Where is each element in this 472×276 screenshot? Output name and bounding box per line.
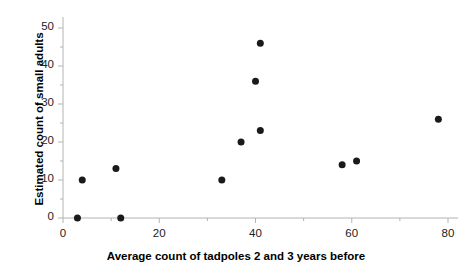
data-point [252, 78, 259, 85]
data-point [238, 139, 245, 146]
data-point [257, 127, 264, 134]
y-tick-label: 40 [14, 58, 54, 70]
data-point [79, 177, 86, 184]
data-point [257, 40, 264, 47]
y-tick-label: 30 [14, 96, 54, 108]
y-tick-label: 50 [14, 20, 54, 32]
data-point [112, 165, 119, 172]
y-tick-label: 10 [14, 172, 54, 184]
y-tick-label: 20 [14, 134, 54, 146]
y-axis-title: Estimated count of small adults [33, 0, 45, 244]
x-tick-label: 80 [428, 227, 468, 239]
x-tick-label: 0 [43, 227, 83, 239]
x-tick-label: 60 [332, 227, 372, 239]
data-point [435, 116, 442, 123]
data-point [353, 158, 360, 165]
scatter-chart-figure: Estimated count of small adults Average … [0, 0, 472, 276]
x-tick-label: 40 [236, 227, 276, 239]
data-point [74, 215, 81, 222]
data-point [218, 177, 225, 184]
data-point [117, 215, 124, 222]
x-tick-label: 20 [139, 227, 179, 239]
data-point [339, 161, 346, 168]
x-axis-title: Average count of tadpoles 2 and 3 years … [0, 250, 472, 262]
y-tick-label: 0 [14, 210, 54, 222]
